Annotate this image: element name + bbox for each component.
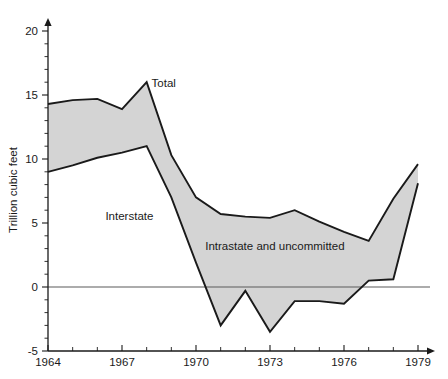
y-tick-label: 20 [25,25,38,37]
annotation-interstate: Interstate [105,210,153,222]
x-tick-label: 1964 [35,356,61,368]
x-tick-label: 1973 [257,356,283,368]
x-tick-label: 1979 [405,356,431,368]
y-tick-label: 10 [25,153,38,165]
x-tick-label: 1967 [109,356,135,368]
y-tick-label: 5 [32,217,38,229]
y-tick-label: 0 [32,281,38,293]
x-tick-label: 1970 [183,356,209,368]
chart-page: -505101520 196419671970197319761979 Tota… [0,0,448,379]
x-tick-label: 1976 [331,356,357,368]
y-tick-label: 15 [25,89,38,101]
line-area-chart: -505101520 196419671970197319761979 Tota… [0,0,448,379]
annotation-total: Total [152,77,176,89]
annotation-intrastate-and-uncommitted: Intrastate and uncommitted [205,240,344,252]
y-axis-title: Trillion cubic feet [7,146,19,233]
